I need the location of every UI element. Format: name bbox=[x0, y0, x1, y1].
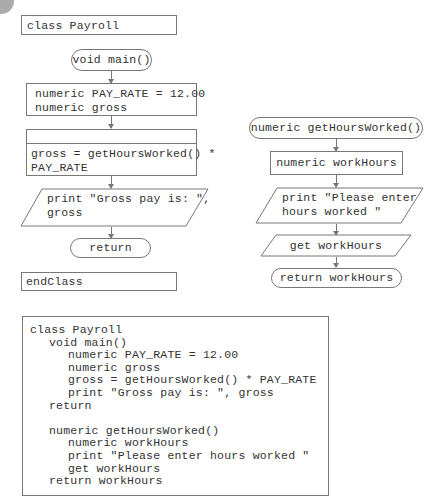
process-line: gross = getHoursWorked() * bbox=[31, 147, 196, 161]
pseudocode-line: print "Gross pay is: ", gross bbox=[30, 387, 328, 400]
arrow-3 bbox=[111, 176, 112, 188]
method-terminal: numeric getHoursWorked() bbox=[249, 117, 423, 139]
arrow-5 bbox=[336, 139, 337, 151]
pseudocode-box: class Payrollvoid main()numeric PAY_RATE… bbox=[22, 316, 329, 496]
corner-marker bbox=[0, 0, 14, 14]
return-workhours-text: return workHours bbox=[280, 271, 394, 284]
declarations-box: numeric PAY_RATE = 12.00 numeric gross bbox=[26, 83, 197, 116]
pseudocode-line: return bbox=[30, 400, 328, 413]
class-header-text: class Payroll bbox=[27, 19, 119, 32]
class-footer-box: endClass bbox=[21, 272, 177, 291]
declaration-line: numeric PAY_RATE = 12.00 bbox=[35, 87, 196, 101]
arrow-7 bbox=[336, 224, 337, 235]
pseudocode-lines: class Payrollvoid main()numeric PAY_RATE… bbox=[30, 324, 328, 488]
arrow-8 bbox=[336, 257, 337, 267]
workhours-declaration-text: numeric workHours bbox=[276, 156, 397, 169]
pseudocode-line: class Payroll bbox=[30, 324, 328, 337]
output-line: gross bbox=[47, 206, 210, 220]
class-footer-text: endClass bbox=[26, 275, 83, 288]
method-terminal-text: numeric getHoursWorked() bbox=[251, 121, 421, 134]
main-terminal-text: void main() bbox=[72, 53, 150, 66]
arrow-2 bbox=[111, 116, 112, 128]
process-header-band bbox=[27, 130, 196, 144]
declaration-line: numeric gross bbox=[35, 101, 196, 115]
return-workhours-terminal: return workHours bbox=[271, 268, 402, 288]
prompt-text: print "Please enter hours worked " bbox=[282, 191, 417, 219]
process-line: PAY_RATE bbox=[31, 161, 196, 175]
prompt-line: hours worked " bbox=[282, 205, 417, 219]
return-terminal-text: return bbox=[89, 241, 132, 254]
pseudocode-line: print "Please enter hours worked " bbox=[30, 450, 328, 463]
arrow-6 bbox=[336, 175, 337, 187]
main-terminal: void main() bbox=[71, 49, 152, 71]
output-text: print "Gross pay is: ", gross bbox=[47, 192, 210, 220]
arrow-1 bbox=[111, 71, 112, 83]
pseudocode-line bbox=[30, 412, 328, 425]
prompt-line: print "Please enter bbox=[282, 191, 417, 205]
arrow-4 bbox=[111, 227, 112, 238]
input-text: get workHours bbox=[260, 239, 412, 252]
predefined-process-box: gross = getHoursWorked() * PAY_RATE bbox=[26, 129, 197, 176]
workhours-declaration-box: numeric workHours bbox=[270, 151, 403, 175]
class-header-box: class Payroll bbox=[21, 15, 177, 35]
input-line: get workHours bbox=[290, 239, 382, 252]
return-terminal: return bbox=[70, 238, 151, 258]
pseudocode-line: return workHours bbox=[30, 475, 328, 488]
pseudocode-line: numeric PAY_RATE = 12.00 bbox=[30, 349, 328, 362]
output-line: print "Gross pay is: ", bbox=[47, 192, 210, 206]
